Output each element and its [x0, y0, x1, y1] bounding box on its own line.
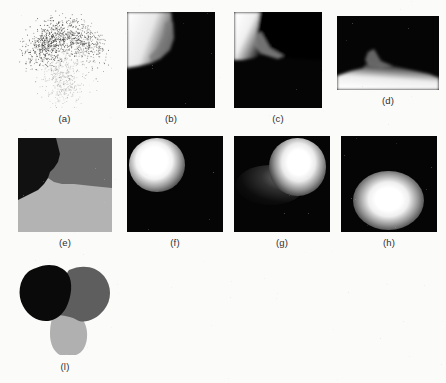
cluster-map-i [14, 258, 116, 356]
panel-a-label: (a) [17, 114, 112, 124]
panel-h-image [341, 136, 437, 232]
panel-e-image [18, 138, 112, 232]
panel-g-label: (g) [234, 238, 330, 248]
blob-g-core [269, 138, 327, 196]
panel-d: (d) [337, 16, 439, 90]
panel-i-image [14, 258, 116, 356]
panel-c-label: (c) [234, 114, 322, 124]
panel-c-image [234, 12, 322, 108]
panel-h: (h) [341, 136, 437, 232]
panel-g: (g) [234, 136, 330, 232]
panel-a: (a) [17, 10, 112, 108]
panel-g-image [234, 136, 330, 232]
scatter-plot [17, 10, 112, 108]
blob-f-core [129, 138, 185, 192]
panel-e-label: (e) [18, 238, 112, 248]
panel-d-label: (d) [337, 96, 439, 106]
segmentation-map-e [18, 138, 112, 232]
panel-b-image [127, 12, 215, 108]
density-map-b [127, 12, 215, 108]
panel-f-label: (f) [127, 238, 223, 248]
panel-f: (f) [127, 136, 223, 232]
figure-canvas: (a) [0, 0, 446, 383]
panel-c: (c) [234, 12, 322, 108]
panel-b: (b) [127, 12, 215, 108]
panel-d-image [337, 16, 439, 90]
panel-i: (l) [14, 258, 116, 356]
blob-h-core [353, 171, 424, 231]
panel-b-label: (b) [127, 114, 215, 124]
panel-h-label: (h) [341, 238, 437, 248]
density-map-c [234, 12, 322, 108]
panel-e: (e) [18, 138, 112, 232]
panel-i-label: (l) [14, 362, 116, 372]
panel-a-image [17, 10, 112, 108]
panel-f-image [127, 136, 223, 232]
density-map-d [337, 16, 439, 90]
